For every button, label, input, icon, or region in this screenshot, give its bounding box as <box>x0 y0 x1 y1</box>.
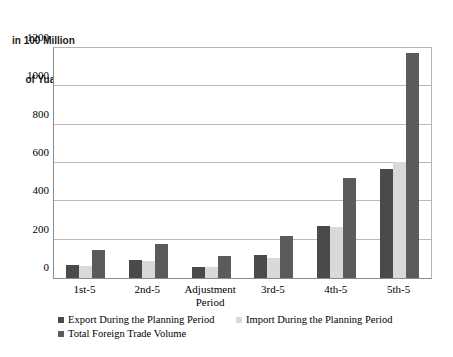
bar-export <box>317 226 330 278</box>
bar-total <box>406 53 419 278</box>
bar-import <box>142 261 155 278</box>
bar-group <box>66 48 105 278</box>
gridline <box>54 162 431 163</box>
x-axis-label: 4th-5 <box>304 283 367 296</box>
bar-total <box>280 236 293 278</box>
gridline <box>54 239 431 240</box>
bar-export <box>380 169 393 278</box>
legend-swatch-export <box>58 317 64 323</box>
legend-swatch-total <box>58 331 64 337</box>
legend-row-2: Total Foreign Trade Volume <box>58 327 448 341</box>
y-axis-tick-label: 600 <box>33 147 50 158</box>
bar-import <box>79 266 92 278</box>
legend-entry-import: Import During the Planning Period <box>236 313 392 327</box>
bar-group <box>380 48 419 278</box>
chart-plot-area: 020040060080010001200 <box>53 47 432 279</box>
bar-import <box>205 267 218 278</box>
bar-export <box>66 265 79 278</box>
bar-import <box>330 227 343 278</box>
y-axis-tick-label: 1200 <box>27 32 49 43</box>
bar-total <box>155 244 168 279</box>
legend-entry-total: Total Foreign Trade Volume <box>58 327 186 341</box>
bar-group <box>254 48 293 278</box>
legend-swatch-import <box>236 317 242 323</box>
x-axis-label: 1st-5 <box>53 283 116 296</box>
bar-export <box>192 267 205 278</box>
bar-export <box>254 255 267 278</box>
legend-row-1: Export During the Planning Period Import… <box>58 313 448 327</box>
chart-legend: Export During the Planning Period Import… <box>58 313 448 341</box>
gridline <box>54 200 431 201</box>
bar-group <box>192 48 231 278</box>
bar-group <box>129 48 168 278</box>
bar-total <box>343 178 356 278</box>
y-axis-tick-label: 800 <box>33 108 50 119</box>
x-axis-label: 3rd-5 <box>242 283 305 296</box>
legend-label-import: Import During the Planning Period <box>246 313 392 327</box>
bar-export <box>129 260 142 278</box>
x-axis-label: Adjustment Period <box>179 283 242 308</box>
legend-label-export: Export During the Planning Period <box>68 313 214 327</box>
y-axis-tick-label: 0 <box>44 262 50 273</box>
bar-import <box>267 258 280 278</box>
x-axis-label: 2nd-5 <box>116 283 179 296</box>
legend-entry-export: Export During the Planning Period <box>58 313 214 327</box>
bar-total <box>218 256 231 278</box>
y-axis-tick-label: 400 <box>33 185 50 196</box>
x-axis-label: 5th-5 <box>367 283 430 296</box>
gridline <box>54 85 431 86</box>
legend-label-total: Total Foreign Trade Volume <box>68 327 186 341</box>
y-axis-tick-label: 200 <box>33 223 50 234</box>
gridline <box>54 124 431 125</box>
bar-import <box>393 162 406 278</box>
bar-group <box>317 48 356 278</box>
bar-total <box>92 250 105 278</box>
y-axis-tick-label: 1000 <box>27 70 49 81</box>
